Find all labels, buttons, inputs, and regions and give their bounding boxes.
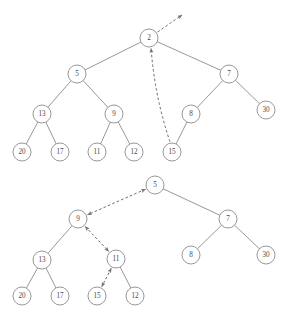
tree-node-8: 8: [182, 105, 200, 123]
tree-node-15: 15: [163, 143, 181, 161]
node-value-label: 5: [153, 181, 157, 189]
node-value-label: 7: [226, 215, 230, 223]
tree-edge-13-17: [46, 122, 56, 144]
node-value-label: 20: [18, 292, 26, 300]
node-value-label: 9: [112, 110, 116, 118]
pointer-5-to-9: [88, 189, 146, 215]
tree-edge-7-30: [235, 225, 260, 249]
tree-edge-11-12: [120, 267, 131, 288]
node-value-label: 8: [189, 110, 193, 118]
node-value-label: 20: [18, 148, 26, 156]
node-value-label: 15: [168, 148, 176, 156]
node-value-label: 5: [75, 70, 79, 78]
tree-edge-2-7: [157, 42, 221, 71]
node-value-label: 30: [262, 251, 270, 259]
tree-node-12: 12: [126, 287, 144, 305]
nodes-layer: 2571398302017111215597131183020171512: [13, 29, 275, 305]
node-value-label: 30: [262, 106, 270, 114]
node-value-label: 8: [189, 251, 193, 259]
tree-edge-5-13: [48, 81, 71, 107]
tree-edge-9-12: [118, 122, 130, 144]
node-value-label: 15: [93, 292, 101, 300]
tree-node-30: 30: [257, 101, 275, 119]
tree-edge-7-8: [197, 81, 223, 108]
tree-node-2: 2: [140, 29, 158, 47]
tree-node-7: 7: [219, 210, 237, 228]
tree-node-13: 13: [33, 251, 51, 269]
node-value-label: 17: [56, 148, 64, 156]
node-value-label: 13: [38, 256, 46, 264]
tree-edge-9-11: [101, 122, 111, 144]
tree-edge-7-8: [197, 225, 221, 248]
node-value-label: 7: [227, 70, 231, 78]
tree-node-20: 20: [13, 143, 31, 161]
tree-node-11: 11: [107, 250, 125, 268]
pointer-11-to-15: [102, 268, 111, 286]
tree-node-5: 5: [146, 176, 164, 194]
tree-node-5: 5: [68, 65, 86, 83]
tree-node-30: 30: [257, 246, 275, 264]
tree-node-20: 20: [13, 287, 31, 305]
node-value-label: 9: [76, 215, 80, 223]
tree-edge-13-17: [46, 268, 56, 288]
tree-edge-5-7: [163, 189, 220, 215]
tree-edge-5-9: [83, 81, 108, 108]
tree-node-11: 11: [88, 143, 106, 161]
tree-edge-9-13: [48, 226, 72, 253]
tree-figure: 2571398302017111215597131183020171512: [0, 0, 291, 324]
tree-node-17: 17: [51, 287, 69, 305]
node-value-label: 11: [113, 255, 120, 263]
tree-edge-13-20: [26, 268, 37, 288]
tree-edge-7-30: [235, 80, 259, 103]
pointer-15-to-root: [151, 48, 170, 141]
tree-node-12: 12: [125, 143, 143, 161]
tree-edge-2-5: [85, 42, 141, 70]
tree-node-7: 7: [220, 65, 238, 83]
node-value-label: 12: [130, 148, 138, 156]
node-value-label: 12: [131, 292, 139, 300]
tree-edge-13-20: [26, 122, 38, 144]
node-value-label: 17: [56, 292, 64, 300]
node-value-label: 13: [38, 110, 46, 118]
pointer-out-of-root: [158, 15, 182, 32]
tree-node-9: 9: [69, 210, 87, 228]
tree-node-9: 9: [105, 105, 123, 123]
node-value-label: 2: [147, 34, 151, 42]
tree-node-8: 8: [182, 246, 200, 264]
pointer-9-to-11: [85, 227, 109, 252]
tree-node-17: 17: [51, 143, 69, 161]
node-value-label: 11: [94, 148, 101, 156]
tree-edge-8-15: [176, 122, 187, 144]
tree-node-15: 15: [88, 287, 106, 305]
tree-node-13: 13: [33, 105, 51, 123]
tree-canvas: 2571398302017111215597131183020171512: [0, 0, 291, 324]
